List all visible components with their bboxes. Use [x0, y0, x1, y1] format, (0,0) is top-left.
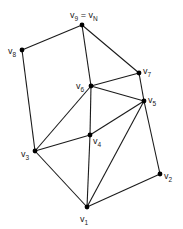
- label-v2: v2: [164, 171, 173, 183]
- edge-v6-v3: [35, 86, 91, 151]
- edge-v1-v2: [87, 174, 160, 207]
- label-v4: v4: [93, 136, 102, 148]
- node-v5: [142, 99, 147, 104]
- edge-v9-v6: [82, 25, 91, 86]
- node-v8: [20, 48, 25, 53]
- edge-v7-v6: [91, 73, 139, 86]
- label-v1: v1: [80, 214, 89, 226]
- label-v9: v9 = vN: [70, 10, 98, 22]
- planar-graph-diagram: v1v2v3v4v5v6v7v8v9 = vN: [0, 0, 183, 229]
- edge-v7-v5: [139, 73, 144, 101]
- node-v2: [158, 172, 163, 177]
- edge-v6-v4: [90, 86, 91, 135]
- node-v7: [137, 71, 142, 76]
- node-v6: [89, 84, 94, 89]
- label-v3: v3: [21, 149, 30, 161]
- label-v8: v8: [8, 46, 17, 58]
- node-v4: [88, 133, 93, 138]
- edge-v3-v1: [35, 151, 87, 207]
- node-v1: [85, 205, 90, 210]
- edge-v5-v1: [87, 101, 144, 207]
- edge-v6-v5: [91, 86, 144, 101]
- edge-v9-v7: [82, 25, 139, 73]
- edge-v9-v8: [22, 25, 82, 50]
- node-v3: [33, 149, 38, 154]
- label-v6: v6: [76, 81, 85, 93]
- label-v7: v7: [143, 66, 152, 78]
- edge-v4-v1: [87, 135, 90, 207]
- edge-v5-v4: [90, 101, 144, 135]
- edge-v4-v3: [35, 135, 90, 151]
- graph-edges: [22, 25, 160, 207]
- node-v9: [80, 23, 85, 28]
- edge-v8-v3: [22, 50, 35, 151]
- label-v5: v5: [148, 95, 157, 107]
- edge-v5-v2: [144, 101, 160, 174]
- graph-nodes: [20, 23, 163, 210]
